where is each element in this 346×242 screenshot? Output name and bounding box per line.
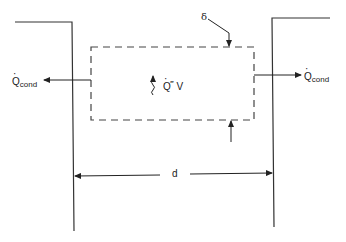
q-symbol: Q bbox=[12, 76, 20, 87]
width-label: d bbox=[172, 169, 178, 179]
q-cond-right-label: Qcond bbox=[304, 72, 329, 84]
q-cond-left-label: Qcond bbox=[12, 77, 37, 89]
right-wall bbox=[272, 18, 330, 227]
volume-symbol: V bbox=[174, 81, 183, 92]
delta-label: δ bbox=[201, 12, 207, 22]
wavy-generation-arrow bbox=[152, 76, 155, 95]
cond-subscript: cond bbox=[312, 75, 329, 84]
cond-subscript: cond bbox=[20, 80, 37, 89]
left-wall bbox=[15, 22, 74, 231]
q-symbol: Q bbox=[163, 81, 171, 92]
generation-label: Q‴ V bbox=[163, 80, 183, 92]
diagram-canvas bbox=[0, 0, 346, 242]
q-symbol: Q bbox=[304, 71, 312, 82]
delta-leader-arrow-top bbox=[208, 19, 229, 46]
